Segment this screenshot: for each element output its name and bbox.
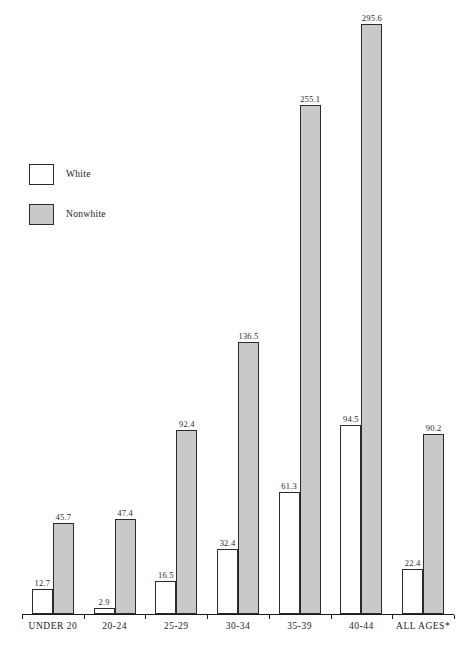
legend-item-white: White bbox=[29, 160, 179, 188]
bar-nonwhite-6 bbox=[423, 434, 444, 614]
x-axis-tick bbox=[269, 615, 270, 619]
bar-value-label: 92.4 bbox=[166, 419, 207, 429]
x-axis-tick-label: 25-29 bbox=[145, 620, 207, 632]
x-axis-tick bbox=[22, 615, 23, 619]
x-axis-baseline bbox=[22, 614, 454, 615]
x-axis-tick-label: 20-24 bbox=[84, 620, 146, 632]
bar-white-2 bbox=[155, 581, 176, 614]
x-axis-tick bbox=[84, 615, 85, 619]
legend-item-nonwhite: Nonwhite bbox=[29, 200, 179, 228]
x-axis-tick-label: 40-44 bbox=[331, 620, 393, 632]
x-axis-tick-label: ALL AGES* bbox=[392, 620, 454, 632]
bar-white-0 bbox=[32, 589, 53, 614]
x-axis-tick-label: 30-34 bbox=[207, 620, 269, 632]
bar-white-6 bbox=[402, 569, 423, 614]
bar-value-label: 136.5 bbox=[228, 331, 269, 341]
bar-nonwhite-3 bbox=[238, 342, 259, 614]
x-axis-tick bbox=[454, 615, 455, 619]
x-axis-tick-label: UNDER 20 bbox=[22, 620, 84, 632]
x-axis-tick-label: 35-39 bbox=[269, 620, 331, 632]
bar-white-3 bbox=[217, 549, 238, 614]
legend-swatch-white-icon bbox=[29, 164, 54, 185]
bar-nonwhite-2 bbox=[176, 430, 197, 614]
x-axis-tick bbox=[145, 615, 146, 619]
chart-legend: White Nonwhite bbox=[29, 160, 179, 240]
bar-nonwhite-5 bbox=[361, 24, 382, 614]
bars-layer: 12.745.72.947.416.592.432.4136.561.3255.… bbox=[22, 8, 454, 615]
bar-white-5 bbox=[340, 425, 361, 614]
x-axis-tick bbox=[331, 615, 332, 619]
bar-value-label: 90.2 bbox=[413, 423, 454, 433]
legend-swatch-nonwhite-icon bbox=[29, 204, 54, 225]
x-axis-tick bbox=[207, 615, 208, 619]
x-axis-tick bbox=[392, 615, 393, 619]
bar-value-label: 295.6 bbox=[351, 13, 392, 23]
bar-nonwhite-4 bbox=[300, 105, 321, 614]
plot-area: 12.745.72.947.416.592.432.4136.561.3255.… bbox=[22, 8, 454, 615]
bar-nonwhite-1 bbox=[115, 519, 136, 614]
bar-nonwhite-0 bbox=[53, 523, 74, 614]
bar-white-4 bbox=[279, 492, 300, 614]
bar-value-label: 47.4 bbox=[105, 508, 146, 518]
legend-label-nonwhite: Nonwhite bbox=[66, 208, 106, 220]
legend-label-white: White bbox=[66, 168, 91, 180]
bar-value-label: 45.7 bbox=[43, 512, 84, 522]
bar-value-label: 255.1 bbox=[290, 94, 331, 104]
bar-chart: 12.745.72.947.416.592.432.4136.561.3255.… bbox=[0, 0, 468, 647]
